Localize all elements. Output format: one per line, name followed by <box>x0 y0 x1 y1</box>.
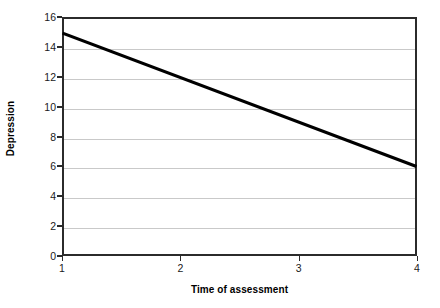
depression-trend-line <box>64 34 415 166</box>
depression-line-chart: Depression 0246810121416 1234 Time of as… <box>0 0 440 308</box>
data-series-layer <box>64 19 415 254</box>
x-tick-mark <box>180 256 181 261</box>
y-tick-label: 4 <box>24 191 56 201</box>
y-tick-label: 2 <box>24 221 56 231</box>
y-tick-label: 0 <box>24 251 56 261</box>
x-axis-title: Time of assessment <box>62 284 417 295</box>
y-tick-label: 12 <box>24 72 56 82</box>
x-tick-label: 1 <box>47 262 77 274</box>
y-tick-mark <box>57 16 62 18</box>
plot-area <box>62 17 417 256</box>
y-tick-mark <box>57 195 62 197</box>
y-tick-mark <box>57 165 62 167</box>
y-tick-label: 10 <box>24 102 56 112</box>
y-axis-title-label: Depression <box>6 100 17 155</box>
y-axis-tick-labels: 0246810121416 <box>24 0 56 268</box>
y-tick-mark <box>57 76 62 78</box>
x-tick-label: 3 <box>284 262 314 274</box>
y-tick-label: 16 <box>24 12 56 22</box>
y-tick-mark <box>57 106 62 108</box>
x-tick-mark <box>62 256 63 261</box>
y-tick-mark <box>57 136 62 138</box>
x-tick-label: 4 <box>402 262 432 274</box>
x-tick-label: 2 <box>165 262 195 274</box>
y-axis-title: Depression <box>0 0 22 256</box>
y-tick-mark <box>57 225 62 227</box>
y-tick-label: 8 <box>24 132 56 142</box>
y-tick-label: 6 <box>24 161 56 171</box>
x-tick-mark <box>299 256 300 261</box>
x-tick-mark <box>417 256 418 261</box>
y-tick-label: 14 <box>24 42 56 52</box>
y-tick-mark <box>57 46 62 48</box>
